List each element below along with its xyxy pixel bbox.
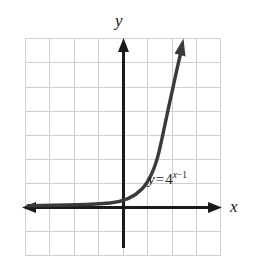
equation-exponent: x−1 (173, 170, 187, 180)
x-axis-arrow-left (22, 202, 36, 213)
exponent-constant: 1 (182, 170, 187, 180)
x-axis-arrow-right (208, 202, 222, 213)
coordinate-plane (0, 0, 254, 267)
equation-lhs: y (148, 171, 155, 187)
graph-figure: y x y=4x−1 (0, 0, 254, 267)
curve-arrow-head (175, 39, 186, 57)
x-axis-label: x (230, 198, 238, 215)
equation-equals: = (155, 171, 165, 187)
axes (22, 38, 222, 248)
y-axis-label: y (115, 12, 123, 29)
y-axis-arrow-up (118, 38, 129, 52)
curve-equation-label: y=4x−1 (148, 172, 187, 187)
equation-base: 4 (165, 171, 173, 187)
